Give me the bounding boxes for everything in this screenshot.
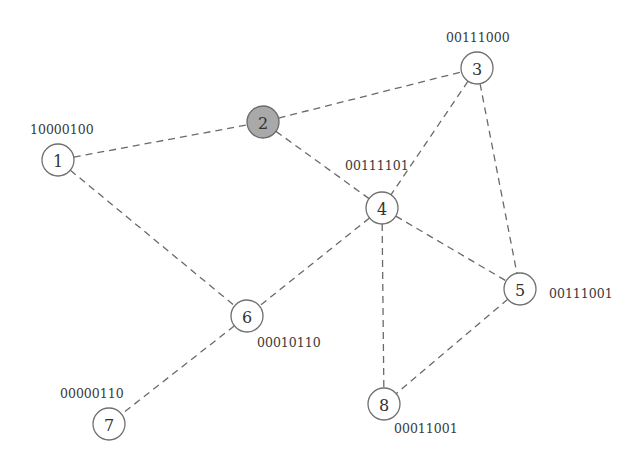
node-1-code-label: 10000100 [30, 122, 94, 137]
node-7: 7 [93, 408, 125, 440]
edge-1-2 [74, 125, 248, 157]
edge-5-8 [396, 299, 508, 393]
node-5-code-label: 00111001 [549, 286, 613, 301]
node-label: 3 [472, 60, 482, 79]
edge-4-8 [382, 224, 384, 388]
node-6: 6 [231, 300, 263, 332]
node-label: 8 [379, 396, 389, 415]
node-label: 2 [258, 114, 268, 133]
edge-2-3 [279, 72, 462, 118]
node-label: 1 [53, 152, 63, 171]
node-3-code-label: 00111000 [446, 30, 510, 45]
edge-4-6 [259, 218, 369, 306]
edge-3-4 [391, 81, 468, 195]
node-6-code-label: 00010110 [257, 335, 321, 350]
node-2: 2 [247, 106, 279, 138]
node-8-code-label: 00011001 [394, 421, 458, 436]
edges-layer [70, 72, 517, 414]
code-labels-layer: 1000010000111000001111010011100100010110… [30, 30, 613, 436]
nodes-layer: 12345678 [42, 52, 536, 440]
node-label: 6 [242, 308, 252, 327]
node-label: 7 [104, 416, 114, 435]
node-7-code-label: 00000110 [60, 386, 124, 401]
node-label: 5 [515, 281, 525, 300]
node-8: 8 [368, 388, 400, 420]
node-5: 5 [504, 273, 536, 305]
node-4: 4 [366, 192, 398, 224]
node-label: 4 [377, 200, 387, 219]
edge-3-5 [480, 84, 517, 274]
edge-4-5 [396, 216, 506, 281]
node-3: 3 [461, 52, 493, 84]
node-1: 1 [42, 144, 74, 176]
edge-6-7 [122, 326, 235, 414]
edge-1-6 [70, 170, 234, 306]
node-4-code-label: 00111101 [345, 158, 409, 173]
network-graph: 12345678 1000010000111000001111010011100… [0, 0, 641, 468]
